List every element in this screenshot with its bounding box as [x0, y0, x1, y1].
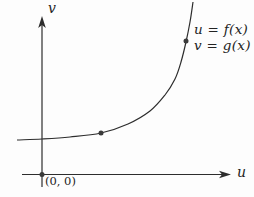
curve-point-dot [184, 39, 189, 44]
curve-point-dots [40, 39, 189, 178]
v-axis-label: v [48, 1, 56, 16]
u-axis-label: u [237, 165, 246, 180]
figure-canvas: v u u = f(x) v = g(x) (0, 0) [0, 0, 254, 197]
curve-equation-label-v: v = g(x) [194, 38, 251, 53]
origin-label: (0, 0) [45, 175, 76, 188]
curve-equation-label-u: u = f(x) [194, 22, 248, 37]
curve-point-dot [99, 131, 104, 136]
origin-dot [40, 172, 45, 177]
